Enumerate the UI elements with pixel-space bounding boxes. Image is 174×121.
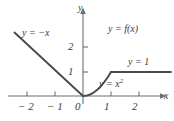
y-tick-label-2: 2: [68, 41, 74, 52]
x-tick-label--2: − 2: [18, 101, 34, 112]
label-parabola-base: y = x: [99, 78, 120, 89]
x-tick-label--1: − 1: [47, 101, 63, 112]
label-parabola-exponent: 2: [120, 77, 124, 85]
label-function-name: y = f(x): [108, 24, 138, 34]
y-axis-name: y: [78, 3, 82, 13]
x-axis-name: x: [164, 91, 168, 101]
label-linear-branch: y = −x: [22, 28, 49, 38]
label-parabola-branch: y = x2: [99, 78, 123, 89]
y-tick-label-1: 1: [68, 66, 74, 77]
label-constant-branch: y = 1: [128, 57, 149, 67]
x-tick-label-1: 1: [104, 101, 110, 112]
x-tick-label-2: 2: [132, 101, 138, 112]
function-graph-figure: y = −x y = f(x) y = 1 y = x2 − 2 − 1 0 1…: [0, 0, 174, 121]
x-tick-label-0: 0: [75, 101, 81, 112]
